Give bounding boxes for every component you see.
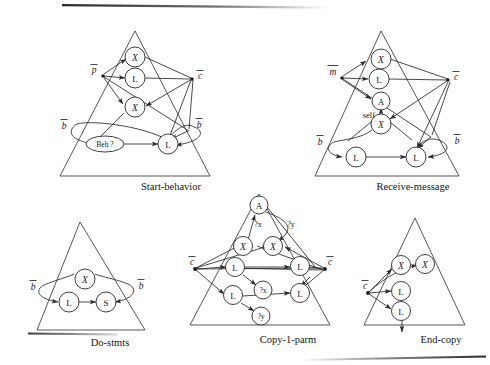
node-script-x-top: X (125, 47, 145, 67)
svg-text:?x: ?x (259, 286, 266, 295)
port-c-bar-dot (366, 291, 370, 295)
port-c-bar: c (453, 72, 460, 83)
node-l-lower-right: L (291, 284, 310, 303)
svg-text:X: X (397, 261, 405, 271)
node-script-x-right: X (264, 237, 283, 256)
port-b-bar-left: b (61, 120, 68, 132)
rule-do-stmts: b b X L S Do-stmts (30, 222, 146, 348)
page-edge-bottom-right (300, 357, 486, 361)
port-c-bar-label: c (363, 281, 368, 291)
node-script-x-mid: X (125, 97, 145, 117)
port-c-bar: c (197, 71, 204, 82)
edges (369, 265, 417, 332)
node-a: A (372, 92, 390, 110)
svg-text:L: L (353, 153, 359, 163)
ports: c (362, 281, 370, 295)
svg-text:Beh ?: Beh ? (96, 140, 114, 149)
caption-do-stmts: Do-stmts (91, 337, 130, 348)
rule-end-copy: c X X L L End-copy (362, 218, 466, 345)
svg-text:L: L (66, 298, 72, 308)
port-b-bar-left: b (30, 281, 37, 293)
port-c-bar-right-label: c (328, 257, 333, 267)
node-script-x-top: X (371, 49, 391, 69)
node-l-lower: L (392, 302, 411, 321)
nodes: X L X Beh ? L (86, 47, 178, 154)
node-l-upper: L (392, 282, 411, 301)
nodes: X X L L (392, 255, 435, 321)
node-l-upper-left: L (226, 258, 245, 277)
svg-text:X: X (131, 53, 139, 63)
svg-text:?y: ?y (257, 312, 264, 321)
svg-text:L: L (297, 262, 303, 272)
port-b-bar-right: b (454, 135, 461, 147)
port-c-bar-left-dot (193, 267, 197, 271)
svg-text:S: S (103, 298, 108, 308)
port-b-bar-right-label: b (455, 136, 460, 146)
edges (328, 59, 450, 157)
svg-text:L: L (232, 263, 238, 273)
caption-copy-1-parm: Copy-1-parm (260, 334, 317, 345)
svg-text:X: X (377, 55, 385, 65)
port-c-bar-dot (446, 78, 449, 81)
edge-label-self: self (363, 110, 375, 120)
port-p-bar-label: p (91, 65, 97, 75)
caption-end-copy: End-copy (421, 334, 463, 345)
rewrite-rules-figure: p c b b X L (0, 0, 490, 365)
node-beh-query: Beh ? (86, 136, 124, 152)
port-c-bar-left-label: c (190, 257, 195, 267)
page-edge-top (62, 5, 330, 7)
port-b-bar-left: b (317, 136, 324, 148)
port-m-bar-dot (340, 76, 343, 79)
svg-text:L: L (398, 287, 404, 297)
port-b-bar-right-label: b (197, 120, 202, 130)
port-c-bar: c (362, 281, 369, 292)
port-b-bar-left-label: b (31, 282, 36, 292)
node-l-bottom: L (158, 134, 178, 154)
rule-start-behavior: p c b b X L (60, 31, 210, 192)
svg-text:X: X (269, 242, 277, 252)
node-l-bottom-right: L (406, 147, 426, 167)
svg-text:X: X (81, 275, 89, 285)
port-p-bar: p (91, 65, 98, 76)
svg-text:A: A (256, 201, 263, 211)
page-edge-bottom-left (28, 334, 118, 335)
edge-label-query-x: ?x (254, 220, 262, 229)
node-l-bottom-left: L (346, 147, 366, 167)
nodes: X L S (59, 269, 116, 312)
port-b-bar-left-label: b (62, 121, 67, 131)
node-query-x: ?x (254, 281, 272, 299)
svg-text:L: L (297, 289, 303, 299)
nodes: A X X L L ?x L (224, 196, 310, 325)
port-b-bar-right: b (138, 280, 145, 292)
port-c-bar-right-dot (323, 267, 327, 271)
svg-text:X: X (377, 120, 385, 130)
caption-start-behavior: Start-behavior (141, 181, 202, 192)
port-c-bar-dot (190, 77, 193, 80)
port-c-bar-left: c (189, 257, 196, 268)
svg-text:L: L (230, 291, 236, 301)
svg-text:X: X (239, 242, 247, 252)
port-c-bar-label: c (454, 72, 459, 82)
node-script-x-left: X (392, 256, 411, 275)
triangle-boundary (364, 218, 465, 325)
rule-copy-1-parm: c c A X X L (189, 194, 334, 345)
svg-text:L: L (165, 140, 171, 150)
figure-root: p c b b X L (0, 0, 490, 365)
node-l: L (59, 292, 79, 312)
port-m-bar-label: m (330, 67, 337, 77)
node-l-lower-left: L (224, 286, 243, 305)
port-b-bar-right-label: b (139, 281, 144, 291)
port-b-bar-left-label: b (318, 137, 323, 147)
svg-text:L: L (132, 74, 138, 84)
port-p-bar-dot (101, 74, 104, 77)
node-script-x-left: X (234, 237, 253, 256)
svg-text:L: L (413, 153, 419, 163)
edge-label-query-y: ?y (287, 220, 295, 229)
svg-text:L: L (398, 307, 404, 317)
svg-text:X: X (421, 260, 429, 270)
rule-receive-message: m c b b X L (315, 31, 461, 192)
node-l-upper: L (369, 69, 389, 89)
node-a: A (250, 196, 268, 214)
node-script-x-right: X (416, 255, 435, 274)
node-query-y: ?y (252, 307, 270, 325)
